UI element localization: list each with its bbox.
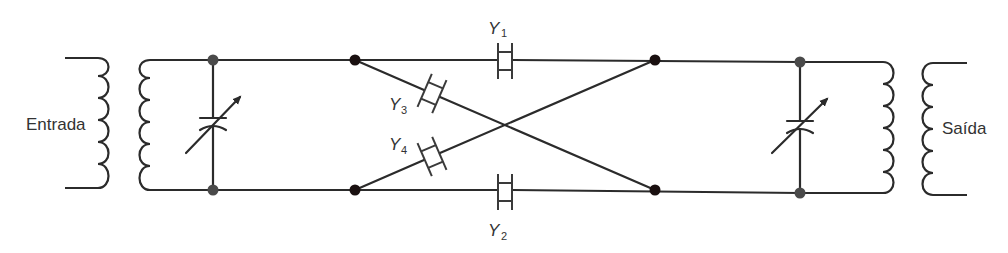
lattice-filter-diagram: Entrada Y 1 Y 2 bbox=[0, 0, 1008, 253]
node-black bbox=[650, 55, 661, 66]
y4-subscript: 4 bbox=[401, 144, 407, 156]
input-variable-capacitor bbox=[186, 60, 240, 190]
crystal-y2 bbox=[498, 174, 512, 210]
y1-subscript: 1 bbox=[501, 27, 507, 39]
crystal-y4 bbox=[418, 137, 447, 176]
output-primary-coil bbox=[800, 62, 894, 193]
node-black bbox=[650, 185, 661, 196]
node-grey bbox=[208, 185, 219, 196]
input-transformer bbox=[65, 58, 215, 190]
node-grey bbox=[795, 188, 806, 199]
crystal-y1 bbox=[498, 43, 512, 79]
input-secondary-coil bbox=[140, 60, 216, 190]
output-label: Saída bbox=[942, 119, 987, 138]
input-label: Entrada bbox=[26, 115, 86, 134]
node-grey bbox=[795, 57, 806, 68]
node-grey bbox=[208, 55, 219, 66]
y3-subscript: 3 bbox=[401, 104, 407, 116]
y2-label: Y bbox=[488, 221, 501, 240]
node-black bbox=[350, 185, 361, 196]
y1-label: Y bbox=[488, 19, 501, 38]
y2-subscript: 2 bbox=[501, 230, 507, 242]
top-rail bbox=[213, 60, 800, 62]
output-variable-capacitor bbox=[772, 62, 827, 193]
bottom-rail bbox=[213, 190, 800, 193]
crystal-y3 bbox=[418, 74, 447, 113]
node-black bbox=[350, 55, 361, 66]
